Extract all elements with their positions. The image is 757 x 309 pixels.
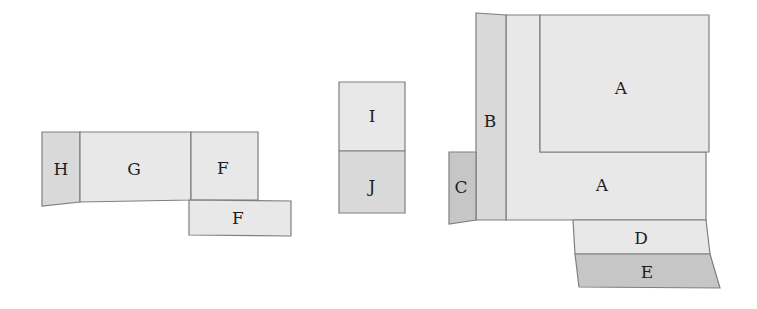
label-c: C [454,177,467,197]
label-f-lower: F [232,208,244,228]
label-g: G [127,159,141,179]
middle-group: I J [339,82,405,213]
dissection-diagram: H G F F I J A A B C D E [0,0,757,309]
label-d: D [634,228,648,248]
label-i: I [369,106,376,126]
label-h: H [54,159,69,179]
label-a-upper: A [614,78,628,98]
label-f-upper: F [217,158,229,178]
label-e: E [641,262,653,282]
label-b: B [484,111,497,131]
label-j: J [367,176,376,196]
left-group: H G F F [42,132,291,236]
label-a-lower: A [595,175,609,195]
right-group: A A B C D E [449,13,720,288]
